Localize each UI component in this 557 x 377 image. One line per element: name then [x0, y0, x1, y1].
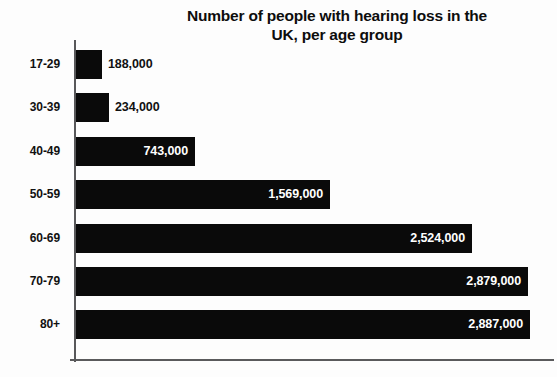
chart-canvas: Number of people with hearing loss in th… [0, 0, 557, 377]
bar[interactable]: 1,569,000 [76, 180, 330, 209]
bar-row: 40-49743,000 [0, 137, 557, 166]
bar-value-label: 2,879,000 [466, 267, 521, 296]
bar-value-label: 234,000 [115, 93, 160, 122]
category-label: 50-59 [0, 180, 60, 209]
bar-value-label: 1,569,000 [268, 180, 323, 209]
bar-value-label: 743,000 [144, 137, 189, 166]
bar-row: 50-591,569,000 [0, 180, 557, 209]
bar-row: 80+2,887,000 [0, 310, 557, 339]
bar-row: 60-692,524,000 [0, 224, 557, 253]
category-label: 60-69 [0, 224, 60, 253]
plot-area: 17-29188,00030-39234,00040-49743,00050-5… [0, 0, 557, 377]
category-label: 40-49 [0, 137, 60, 166]
x-axis-line [70, 359, 554, 361]
bar[interactable] [76, 50, 102, 79]
bar[interactable]: 2,524,000 [76, 224, 472, 253]
bar-row: 17-29188,000 [0, 50, 557, 79]
bar-row: 30-39234,000 [0, 93, 557, 122]
bar-value-label: 2,887,000 [468, 310, 523, 339]
category-label: 17-29 [0, 50, 60, 79]
bar-value-label: 188,000 [108, 50, 153, 79]
bar-value-label: 2,524,000 [410, 224, 465, 253]
bar[interactable]: 2,887,000 [76, 310, 530, 339]
bar-row: 70-792,879,000 [0, 267, 557, 296]
bar[interactable]: 2,879,000 [76, 267, 528, 296]
bar[interactable] [76, 93, 109, 122]
bar[interactable]: 743,000 [76, 137, 195, 166]
category-label: 80+ [0, 310, 60, 339]
category-label: 30-39 [0, 93, 60, 122]
category-label: 70-79 [0, 267, 60, 296]
